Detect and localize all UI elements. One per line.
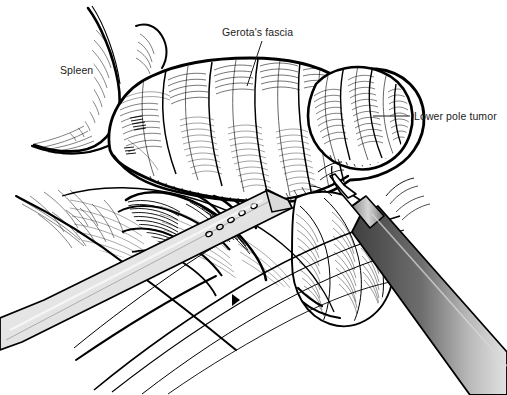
superior-tissue-fold xyxy=(136,24,167,74)
surgical-illustration-figure: Spleen Gerota's fascia Lower pole tumor xyxy=(0,0,507,395)
label-lower-pole-tumor: Lower pole tumor xyxy=(414,110,497,122)
illustration-canvas xyxy=(0,0,507,395)
fan-retractor-instrument xyxy=(0,190,292,350)
label-spleen: Spleen xyxy=(60,64,93,76)
label-gerotas-fascia: Gerota's fascia xyxy=(222,26,293,38)
